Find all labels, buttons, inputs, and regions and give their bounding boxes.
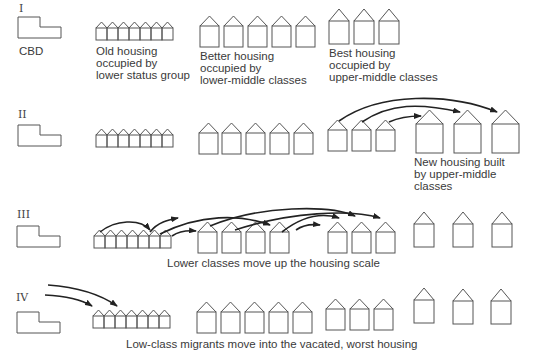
better-housing-row: [198, 222, 302, 253]
best-housing-row: [326, 299, 393, 330]
old-housing-row: [96, 129, 173, 147]
better-housing-label: Better housing occupied by lower-middle …: [200, 50, 307, 86]
better-housing-row: [199, 123, 313, 154]
old-housing-row: [96, 22, 173, 40]
old-housing-label: Old housing occupied by lower status gro…: [96, 45, 190, 81]
new-housing-row: [416, 110, 519, 153]
best-housing-label: Best housing occupied by upper-middle cl…: [329, 47, 438, 83]
stage-label-1: I: [19, 2, 23, 15]
top-housing-row: [414, 288, 511, 324]
stage-label-3: III: [17, 208, 30, 221]
old-housing-row: [93, 310, 170, 328]
cbd-label: CBD: [19, 45, 43, 57]
move-arrows: [339, 98, 497, 122]
stage-1: [18, 9, 399, 47]
stage-4: [17, 285, 511, 333]
cbd-icon: [18, 17, 61, 38]
migrant-arrows: [45, 285, 117, 306]
cbd-icon: [17, 226, 60, 247]
stage-2: [18, 98, 519, 154]
cbd-icon: [18, 125, 61, 146]
best-housing-row: [329, 9, 399, 44]
best-housing-row: [328, 222, 395, 253]
stage-label-2: II: [18, 108, 27, 121]
best-housing-row: [328, 120, 395, 151]
stage-label-4: IV: [16, 291, 28, 304]
better-housing-row: [200, 16, 315, 47]
stage-3: [17, 209, 512, 253]
stage3-caption: Lower classes move up the housing scale: [167, 257, 380, 269]
old-housing-row: [94, 230, 171, 248]
cbd-icon: [17, 312, 60, 333]
new-housing-label: New housing built by upper-middle classe…: [414, 156, 505, 192]
top-housing-row: [414, 212, 512, 247]
better-housing-row: [197, 302, 312, 333]
stage4-caption: Low-class migrants move into the vacated…: [126, 338, 417, 350]
